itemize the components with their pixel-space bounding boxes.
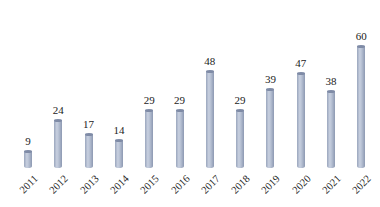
value-label-2014: 14 (104, 124, 134, 136)
x-tick-label-2011: 2011 (11, 173, 40, 202)
value-label-2013: 17 (74, 118, 104, 130)
x-tick-label-2015: 2015 (132, 173, 161, 202)
value-label-2017: 48 (195, 55, 225, 67)
bar-2018 (236, 109, 244, 168)
x-tick-label-2014: 2014 (102, 173, 131, 202)
bar-2012 (54, 119, 62, 168)
x-tick-label-2013: 2013 (71, 173, 100, 202)
x-tick-label-2018: 2018 (223, 173, 252, 202)
value-label-2019: 39 (255, 73, 285, 85)
bar-2021 (327, 90, 335, 168)
value-label-2012: 24 (43, 104, 73, 116)
x-tick-label-2016: 2016 (162, 173, 191, 202)
bar-2013 (85, 133, 93, 168)
bar-2020 (297, 72, 305, 168)
x-tick-label-2020: 2020 (283, 173, 312, 202)
bar-2016 (176, 109, 184, 168)
bar-2017 (206, 70, 214, 168)
bar-2011 (24, 150, 32, 168)
bar-chart: 9201124201217201314201429201529201648201… (0, 0, 380, 207)
x-tick-label-2019: 2019 (253, 173, 282, 202)
value-label-2018: 29 (225, 94, 255, 106)
value-label-2020: 47 (286, 57, 316, 69)
bar-2019 (266, 88, 274, 168)
value-label-2022: 60 (346, 30, 376, 42)
value-label-2021: 38 (316, 75, 346, 87)
value-label-2011: 9 (13, 135, 43, 147)
x-tick-label-2022: 2022 (344, 173, 373, 202)
x-tick-label-2017: 2017 (193, 173, 222, 202)
x-tick-label-2021: 2021 (314, 173, 343, 202)
bar-2022 (357, 45, 365, 168)
value-label-2015: 29 (134, 94, 164, 106)
value-label-2016: 29 (165, 94, 195, 106)
x-tick-label-2012: 2012 (41, 173, 70, 202)
bar-2015 (145, 109, 153, 168)
bar-2014 (115, 139, 123, 168)
